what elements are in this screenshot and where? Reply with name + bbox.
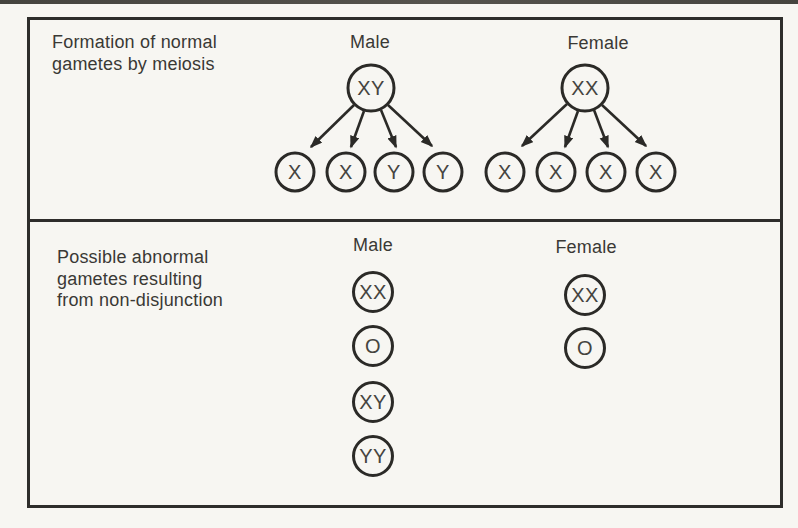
abnormal-female-gamete-cell: O [564, 327, 606, 369]
normal-male-gamete-cell: Y [423, 152, 464, 193]
abnormal-male-label: Male [353, 235, 393, 256]
normal-male-parent-cell: XY [347, 64, 396, 113]
normal-female-label: Female [567, 33, 628, 54]
normal-female-gamete-cell: X [636, 152, 677, 193]
normal-male-label: Male [350, 32, 390, 53]
abnormal-male-gamete-cell: O [352, 325, 394, 367]
abnormal-section-caption: Possible abnormal gametes resulting from… [57, 247, 223, 312]
abnormal-male-gamete-cell: XX [352, 271, 394, 313]
section-divider [27, 219, 783, 222]
scanned-figure-page: Formation of normal gametes by meiosis M… [0, 0, 798, 528]
abnormal-female-label: Female [555, 237, 616, 258]
normal-male-gamete-cell: Y [374, 152, 415, 193]
normal-section-caption: Formation of normal gametes by meiosis [52, 32, 217, 75]
normal-male-gamete-cell: X [326, 152, 367, 193]
normal-female-parent-cell: XX [561, 64, 610, 113]
page-edge-artifact [0, 0, 798, 4]
abnormal-male-gamete-cell: YY [352, 435, 394, 477]
normal-male-gamete-cell: X [275, 152, 316, 193]
normal-female-gamete-cell: X [485, 152, 526, 193]
abnormal-female-gamete-cell: XX [564, 274, 606, 316]
abnormal-male-gamete-cell: XY [352, 381, 394, 423]
normal-female-gamete-cell: X [536, 152, 577, 193]
normal-female-gamete-cell: X [586, 152, 627, 193]
